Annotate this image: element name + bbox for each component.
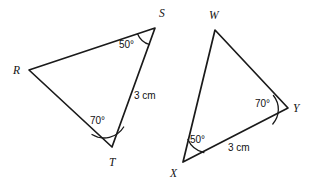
vertex-label-r: R [12,64,20,76]
angle-label-x: 50° [190,134,205,145]
angle-arc-s [138,34,150,45]
angle-arc-y [273,96,279,125]
triangle-rst-outline [29,28,155,147]
geometry-figure: R S T 50° 70° 3 cm W X Y 50° 70° 3 cm [0,0,317,185]
geometry-canvas: R S T 50° 70° 3 cm W X Y 50° 70° 3 cm [0,0,317,185]
side-length-label-st: 3 cm [134,90,156,101]
angle-label-t: 70° [90,115,105,126]
vertex-label-x: X [169,167,178,179]
vertex-label-w: W [209,9,220,21]
vertex-label-s: S [159,7,165,19]
triangle-wxy: W X Y 50° 70° 3 cm [169,9,301,179]
vertex-label-t: T [109,156,117,168]
triangle-rst: R S T 50° 70° 3 cm [12,7,165,168]
angle-label-s: 50° [119,39,134,50]
side-length-label-xy: 3 cm [228,142,250,153]
angle-label-y: 70° [255,98,270,109]
vertex-label-y: Y [293,102,301,114]
